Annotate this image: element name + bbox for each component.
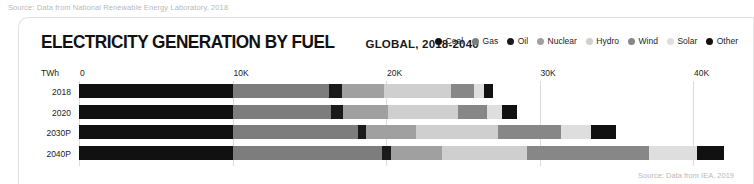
bar-segment-oil[interactable]: [329, 84, 342, 98]
x-axis-tick-label: 20K: [387, 68, 402, 78]
bar-segment-solar[interactable]: [487, 105, 502, 119]
bar-segment-wind[interactable]: [451, 84, 474, 98]
plot-area: TWh010K20K30K40K201820202030P2040P: [19, 18, 754, 184]
bar-segment-coal[interactable]: [79, 105, 233, 119]
bar-segment-wind[interactable]: [527, 146, 650, 160]
bar-segment-oil[interactable]: [331, 105, 343, 119]
bar-segment-solar[interactable]: [649, 146, 696, 160]
stacked-bar-2020[interactable]: [79, 105, 517, 119]
bar-segment-coal[interactable]: [79, 125, 233, 139]
bar-segment-other[interactable]: [484, 84, 494, 98]
bar-segment-gas[interactable]: [233, 146, 382, 160]
bar-segment-wind[interactable]: [498, 125, 561, 139]
bar-segment-nuclear[interactable]: [366, 125, 416, 139]
bar-segment-gas[interactable]: [233, 105, 331, 119]
bar-segment-solar[interactable]: [474, 84, 484, 98]
y-axis-row-label: 2018: [23, 87, 71, 97]
bottom-source-note: Source: Data from IEA, 2019: [638, 171, 734, 180]
stacked-bar-2030P[interactable]: [79, 125, 616, 139]
bar-segment-gas[interactable]: [233, 125, 358, 139]
y-axis-row-label: 2020: [23, 108, 71, 118]
bar-segment-other[interactable]: [591, 125, 617, 139]
bar-segment-hydro[interactable]: [384, 84, 451, 98]
bar-segment-coal[interactable]: [79, 84, 233, 98]
bar-segment-nuclear[interactable]: [343, 105, 388, 119]
bar-segment-other[interactable]: [502, 105, 517, 119]
axis-unit-label: TWh: [41, 68, 59, 78]
stacked-bar-2040P[interactable]: [79, 146, 724, 160]
chart-card: ELECTRICITY GENERATION BY FUEL GLOBAL, 2…: [18, 17, 754, 184]
x-axis-tick-label: 0: [80, 68, 85, 78]
y-axis-row-label: 2030P: [23, 128, 71, 138]
bar-segment-wind[interactable]: [458, 105, 487, 119]
bar-segment-gas[interactable]: [233, 84, 329, 98]
bar-segment-solar[interactable]: [561, 125, 591, 139]
x-axis-tick-label: 30K: [541, 68, 556, 78]
bar-segment-hydro[interactable]: [416, 125, 498, 139]
bar-segment-other[interactable]: [697, 146, 724, 160]
bar-segment-nuclear[interactable]: [391, 146, 442, 160]
bar-segment-nuclear[interactable]: [342, 84, 384, 98]
x-axis-tick-label: 40K: [694, 68, 709, 78]
bar-segment-coal[interactable]: [79, 146, 233, 160]
bar-segment-oil[interactable]: [358, 125, 366, 139]
top-source-note: Source: Data from National Renewable Ene…: [8, 3, 228, 12]
bar-segment-hydro[interactable]: [388, 105, 458, 119]
y-axis-row-label: 2040P: [23, 149, 71, 159]
stacked-bar-2018[interactable]: [79, 84, 493, 98]
bar-segment-hydro[interactable]: [442, 146, 527, 160]
x-axis-tick-label: 10K: [234, 68, 249, 78]
bar-segment-oil[interactable]: [382, 146, 391, 160]
